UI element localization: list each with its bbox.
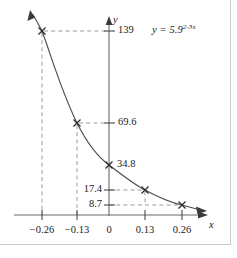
y-tick-label-17-4: 17.4	[64, 184, 102, 195]
y-axis-arrowhead	[106, 16, 113, 25]
x-axis-label: x	[209, 219, 214, 230]
x-tick-label-0-26: 0.26	[173, 225, 191, 236]
x-tick-label-neg-0-13: −0.13	[65, 225, 89, 236]
y-tick-label-69-6: 69.6	[118, 117, 136, 128]
y-tick-label-139: 139	[118, 25, 134, 36]
graph-figure: 139 69.6 34.8 17.4 8.7 −0.26 −0.13 0 0.1…	[0, 0, 237, 258]
y-axis-label: y	[113, 14, 118, 25]
data-point-markers	[39, 28, 186, 209]
x-tick-label-0-13: 0.13	[136, 225, 154, 236]
x-tick-label-0: 0	[106, 225, 111, 236]
y-tick-label-8-7: 8.7	[64, 199, 102, 210]
equation-base: y = 5.9	[152, 24, 183, 35]
exponential-curve	[33, 15, 200, 210]
plot-canvas	[0, 0, 237, 258]
equation-exponent: 2-3x	[183, 23, 196, 31]
x-tick-label-neg-0-26: −0.26	[30, 225, 54, 236]
y-tick-label-34-8: 34.8	[117, 159, 135, 170]
x-axis	[14, 211, 208, 218]
equation-annotation: y = 5.92-3x	[152, 24, 196, 35]
curve-arrowhead-left	[27, 10, 35, 21]
y-axis	[106, 16, 113, 216]
